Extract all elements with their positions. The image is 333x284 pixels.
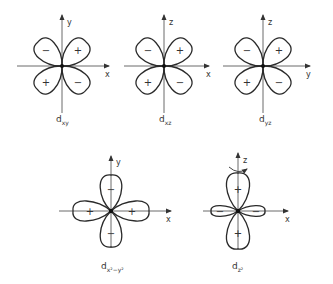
lobe-sign-lower-right: − — [74, 77, 82, 88]
label-subscript: z² — [238, 266, 244, 273]
lobe-sign-upper-right: + — [275, 45, 283, 56]
lobe-sign-right: − — [252, 206, 260, 217]
d-orbitals-diagram: y x − + + − dxy z x − + + − dxz z y − + … — [0, 0, 333, 284]
nucleus — [162, 64, 166, 68]
lobe-sign-bottom: − — [107, 228, 115, 239]
horizontal-axis-label: y — [306, 70, 311, 79]
orbital-dyz: z y − + + − dyz — [223, 15, 311, 127]
vertical-axis-label: z — [268, 18, 272, 27]
lobe-sign-lower-left: + — [243, 77, 251, 88]
lobe-sign-left: + — [86, 206, 94, 217]
lobe-sign-upper-left: − — [243, 45, 251, 56]
lobe-sign-right: + — [128, 206, 136, 217]
lobe-sign-top: − — [107, 184, 115, 195]
label-subscript: x²−y² — [107, 266, 125, 274]
lobe-sign-upper-right: + — [176, 45, 184, 56]
lobe-sign-bottom: + — [234, 228, 242, 239]
lobe-sign-top: + — [234, 184, 242, 195]
vertical-axis-label: y — [116, 158, 121, 167]
lobe-sign-lower-left: + — [144, 77, 152, 88]
horizontal-axis-label: x — [105, 70, 110, 79]
label-subscript: yz — [265, 119, 272, 127]
vertical-axis-label: z — [169, 18, 173, 27]
orbital-label: dx²−y² — [101, 261, 124, 274]
label-subscript: xz — [165, 119, 172, 126]
lobe-sign-lower-right: − — [275, 77, 283, 88]
orbital-dxy: y x − + + − dxy — [17, 15, 110, 127]
orbital-dz2: z x + − + − dz² — [203, 153, 290, 273]
orbital-dxz: z x − + + − dxz — [124, 15, 211, 126]
orbital-label: dyz — [259, 114, 271, 127]
horizontal-axis-label: x — [206, 70, 211, 79]
nucleus — [236, 209, 240, 213]
lobe-sign-upper-left: − — [144, 45, 152, 56]
label-subscript: xy — [62, 119, 70, 127]
orbital-label: dxz — [159, 114, 171, 126]
horizontal-axis-label: x — [166, 215, 171, 224]
nucleus — [261, 64, 265, 68]
nucleus — [60, 64, 64, 68]
lobe-sign-left: − — [216, 206, 224, 217]
lobe-sign-upper-right: + — [74, 45, 82, 56]
orbital-dx2-y2: y x − + − + dx²−y² — [59, 156, 171, 274]
horizontal-axis-label: x — [285, 215, 290, 224]
nucleus — [109, 209, 113, 213]
orbital-label: dxy — [56, 114, 69, 127]
lobe-sign-lower-left: + — [42, 77, 50, 88]
orbital-label: dz² — [232, 261, 244, 273]
vertical-axis-label: z — [243, 156, 247, 165]
vertical-axis-label: y — [67, 18, 72, 27]
lobe-sign-lower-right: − — [176, 77, 184, 88]
lobe-sign-upper-left: − — [42, 45, 50, 56]
